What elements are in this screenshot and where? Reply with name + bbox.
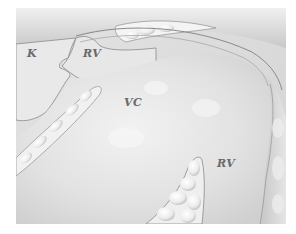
highlight: [144, 81, 168, 95]
anatomical-illustration: K RV VC RV: [16, 8, 286, 224]
fat-bubble: [158, 24, 174, 32]
fat-bubble: [180, 209, 196, 223]
fat-bubble: [272, 156, 284, 180]
label-rv-bottom: RV: [217, 158, 235, 169]
fat-bubble: [137, 25, 155, 35]
fat-bubble: [125, 31, 139, 39]
label-k: K: [27, 48, 37, 59]
fat-bubble: [157, 207, 175, 221]
fat-bubble: [272, 118, 284, 138]
illustration-artwork: [16, 8, 286, 224]
fat-bubble: [187, 194, 201, 210]
fat-bubble: [272, 194, 284, 214]
label-vc: VC: [124, 97, 142, 108]
fat-bubble: [169, 191, 187, 205]
fat-bubble: [188, 160, 200, 176]
label-rv-top: RV: [83, 48, 101, 59]
highlight: [192, 99, 220, 117]
highlight: [108, 128, 144, 148]
fat-bubble: [180, 177, 196, 191]
